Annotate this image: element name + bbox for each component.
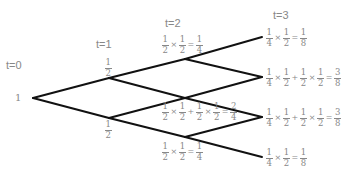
edge-up-uu [109, 59, 185, 78]
edge-up-ud [109, 78, 185, 98]
edge-root-up [33, 78, 109, 98]
prob-t3-uuu: 14 × 12 = 18 [265, 28, 308, 48]
time-label-t2: t=2 [165, 17, 181, 29]
edge-root-down [33, 98, 109, 118]
edge-uu-uud [185, 59, 262, 77]
prob-t2-dd: 12 × 12 = 14 [161, 142, 204, 162]
prob-t1-up: 12 [104, 58, 112, 78]
prob-t3-udd: 14 × 12 + 12 × 12 = 38 [265, 108, 342, 128]
time-label-t0: t=0 [6, 59, 22, 71]
time-label-t3: t=3 [273, 9, 289, 21]
prob-t2-ud: 12 × 12 + 12 × 12 = 24 [161, 102, 238, 122]
prob-t1-down: 12 [104, 120, 112, 140]
time-label-t1: t=1 [96, 38, 112, 50]
prob-t3-ddd: 14 × 12 = 18 [265, 148, 308, 168]
edge-ud-uud [185, 77, 262, 98]
prob-t2-uu: 12 × 12 = 14 [161, 35, 204, 55]
fraction: 12 [105, 58, 112, 78]
root-value: 1 [15, 93, 21, 103]
prob-t3-uud: 14 × 12 + 12 × 12 = 38 [265, 68, 342, 88]
fraction: 12 [105, 120, 112, 140]
